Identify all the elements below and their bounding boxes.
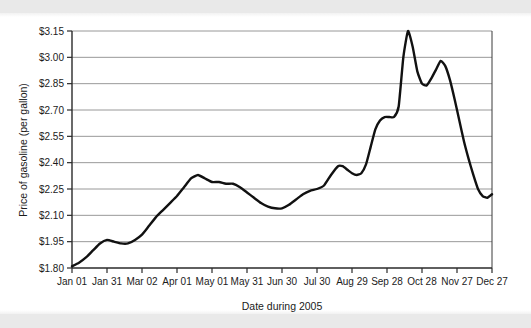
x-axis-tick-label: Mar 02 <box>126 276 158 287</box>
x-axis-tick-label: Jul 30 <box>304 276 331 287</box>
x-axis-tick-label: Nov 27 <box>441 276 473 287</box>
line-chart-figure: Price of gasoline (per gallon) $3.15$3.0… <box>0 0 531 328</box>
y-axis-tick-label: $2.85 <box>39 78 64 89</box>
x-axis-tick-label: May 31 <box>231 276 264 287</box>
gridline-group <box>72 31 492 242</box>
y-axis-tick-label: $1.80 <box>39 263 64 274</box>
y-axis-tick-label: $1.95 <box>39 236 64 247</box>
y-axis-tick-group: $3.15$3.00$2.85$2.70$2.55$2.40$2.25$2.10… <box>39 26 72 274</box>
x-axis-tick-label: Aug 29 <box>336 276 368 287</box>
chart-canvas: Price of gasoline (per gallon) $3.15$3.0… <box>0 0 531 328</box>
x-axis-tick-label: Apr 01 <box>162 276 192 287</box>
x-axis-tick-label: Jun 30 <box>267 276 297 287</box>
plot-frame <box>72 31 492 268</box>
x-axis-tick-label: Jan 31 <box>92 276 122 287</box>
y-axis-tick-label: $2.10 <box>39 210 64 221</box>
x-axis-tick-label: Jan 01 <box>57 276 87 287</box>
x-axis-tick-label: May 01 <box>196 276 229 287</box>
x-axis-title-text: Date during 2005 <box>242 300 323 312</box>
x-axis-tick-group: Jan 01Jan 31Mar 02Apr 01May 01May 31Jun … <box>57 268 508 287</box>
y-axis-title-text: Price of gasoline (per gallon) <box>17 83 29 217</box>
gasoline-price-line <box>72 31 492 266</box>
x-axis-tick-label: Sep 28 <box>371 276 403 287</box>
y-axis-tick-label: $2.25 <box>39 184 64 195</box>
y-axis-tick-label: $2.55 <box>39 131 64 142</box>
y-axis-tick-label: $3.00 <box>39 52 64 63</box>
y-axis-title: Price of gasoline (per gallon) <box>17 83 29 217</box>
x-axis-tick-label: Oct 28 <box>407 276 437 287</box>
y-axis-tick-label: $3.15 <box>39 26 64 37</box>
y-axis-tick-label: $2.70 <box>39 105 64 116</box>
page-canvas: Price of gasoline (per gallon) $3.15$3.0… <box>0 0 531 328</box>
y-axis-tick-label: $2.40 <box>39 157 64 168</box>
x-axis-tick-label: Dec 27 <box>476 276 508 287</box>
